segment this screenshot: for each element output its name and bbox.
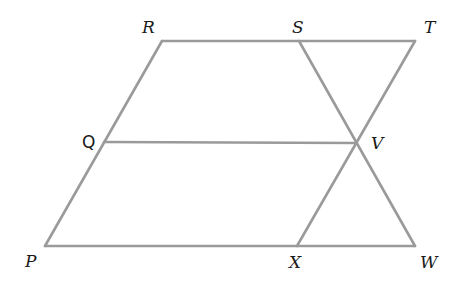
label-S: S [292,17,304,37]
label-Q: Q [82,132,95,152]
segment-QV [104,142,356,143]
label-W: W [420,252,439,272]
geometry-diagram: R S T Q V P X W [0,0,459,293]
label-R: R [141,17,155,37]
label-V: V [371,133,385,153]
segment-PR [45,41,162,246]
label-X: X [287,252,302,272]
label-P: P [24,251,37,271]
label-T: T [424,17,437,37]
